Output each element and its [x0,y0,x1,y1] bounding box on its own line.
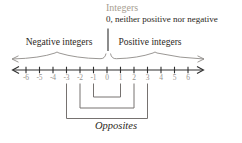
bracket-pair-3 [67,84,148,119]
diagram-title: Integers [106,2,138,13]
negative-range-brace [12,52,106,62]
integers-diagram: Integers 0, neither positive nor negativ… [0,0,242,143]
positive-range-brace [111,52,205,62]
negative-integers-label: Negative integers [26,37,93,47]
tick-label: 6 [180,73,196,82]
opposites-brackets [67,84,148,119]
bracket-pair-2 [80,84,134,109]
opposites-label: Opposites [95,120,137,132]
bracket-pair-1 [94,84,121,98]
zero-note-label: 0, neither positive nor negative [106,15,218,25]
positive-integers-label: Positive integers [118,37,181,47]
